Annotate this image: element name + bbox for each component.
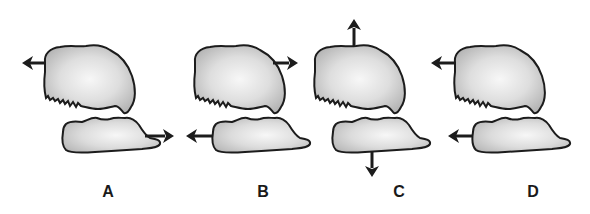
upper-segment <box>194 45 285 113</box>
arrow-down-icon <box>365 152 379 177</box>
diagram: A B C D <box>0 0 590 214</box>
arrow-up-icon <box>347 19 361 46</box>
arrow-left-icon <box>431 56 455 70</box>
panel-label-a: A <box>102 184 114 200</box>
panel-b <box>186 45 310 152</box>
lower-segment <box>212 118 310 153</box>
arrow-left-icon <box>448 129 473 143</box>
panel-label-c: C <box>393 184 405 200</box>
panel-c <box>314 19 430 177</box>
panel-d <box>431 45 570 152</box>
lower-segment <box>332 118 430 153</box>
lower-segment <box>472 118 570 153</box>
arrow-left-icon <box>22 56 45 70</box>
panel-a <box>22 45 174 152</box>
upper-segment <box>44 45 135 113</box>
upper-segment <box>454 45 545 113</box>
upper-segment <box>314 45 405 113</box>
panel-label-b: B <box>257 184 269 200</box>
arrow-left-icon <box>186 129 213 143</box>
diagram-canvas <box>0 0 590 214</box>
panel-label-d: D <box>527 184 539 200</box>
